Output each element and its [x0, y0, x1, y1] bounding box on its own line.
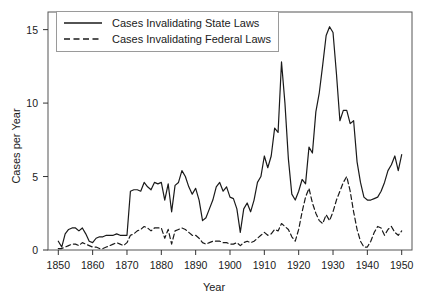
axis-ticks	[43, 30, 402, 255]
x-tick-label: 1920	[287, 259, 310, 271]
chart-figure: 051015 185018601870188018901900191019201…	[0, 0, 428, 304]
x-tick-label: 1890	[184, 259, 207, 271]
x-axis-label: Year	[0, 281, 428, 293]
series-line-state-laws	[58, 27, 401, 247]
x-tick-label: 1940	[356, 259, 379, 271]
x-tick-label: 1930	[321, 259, 344, 271]
x-tick-label: 1860	[81, 259, 104, 271]
x-tick-label: 1910	[253, 259, 276, 271]
series-line-federal-laws	[58, 177, 401, 249]
y-axis-label: Cases per Year	[10, 86, 22, 206]
legend-item-federal-laws: Cases Invalidating Federal Laws	[63, 31, 271, 47]
legend-label-state-laws: Cases Invalidating State Laws	[112, 17, 259, 29]
x-tick-label: 1950	[390, 259, 413, 271]
chart-legend: Cases Invalidating State Laws Cases Inva…	[56, 11, 279, 52]
x-tick-label: 1900	[218, 259, 241, 271]
x-tick-label: 1880	[150, 259, 173, 271]
legend-label-federal-laws: Cases Invalidating Federal Laws	[112, 33, 271, 45]
legend-item-state-laws: Cases Invalidating State Laws	[63, 15, 271, 31]
legend-line-sample-dashed	[63, 34, 103, 44]
y-tick-label: 15	[0, 24, 38, 36]
y-tick-label: 0	[0, 244, 38, 256]
x-tick-label: 1870	[115, 259, 138, 271]
legend-line-sample-solid	[63, 18, 103, 28]
x-tick-label: 1850	[47, 259, 70, 271]
data-series-group	[58, 27, 401, 249]
